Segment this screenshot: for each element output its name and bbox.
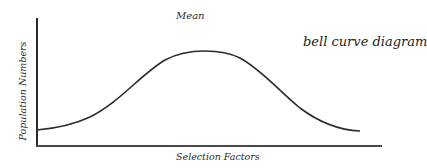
bell-curve xyxy=(37,51,360,131)
x-axis-label: Selection Factors xyxy=(176,151,260,162)
diagram-title: bell curve diagram xyxy=(303,34,427,49)
mean-label: Mean xyxy=(176,10,205,21)
y-axis-label: Population Numbers xyxy=(17,42,28,141)
